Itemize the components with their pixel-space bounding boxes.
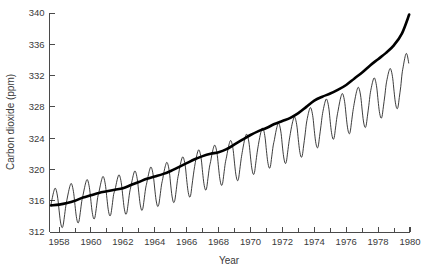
trend-co2-line — [51, 15, 409, 206]
y-axis-title: Carbon dioxide (ppm) — [5, 74, 16, 170]
x-axis-title: Year — [219, 255, 240, 266]
x-tick-label: 1974 — [304, 236, 325, 247]
x-tick-label: 1968 — [208, 236, 229, 247]
x-tick-label: 1964 — [144, 236, 165, 247]
x-tick-label: 1962 — [112, 236, 133, 247]
x-tick-label: 1972 — [272, 236, 293, 247]
y-tick-label: 336 — [29, 39, 45, 50]
chart-canvas: 312316320324328332336340 195819601962196… — [0, 0, 426, 270]
x-tick-label: 1976 — [336, 236, 357, 247]
x-tick-label: 1966 — [176, 236, 197, 247]
y-tick-label: 332 — [29, 70, 45, 81]
x-tick-label: 1970 — [240, 236, 261, 247]
co2-chart-figure: 312316320324328332336340 195819601962196… — [0, 0, 426, 270]
x-axis-tick-labels: 1958196019621964196619681970197219741976… — [49, 236, 421, 247]
x-tick-label: 1958 — [49, 236, 70, 247]
y-tick-label: 320 — [29, 164, 45, 175]
x-tick-label: 1960 — [80, 236, 101, 247]
x-tick-label: 1980 — [399, 236, 420, 247]
y-tick-label: 340 — [29, 7, 45, 18]
x-axis-ticks — [59, 227, 410, 233]
y-tick-label: 324 — [29, 133, 45, 144]
y-axis-tick-labels: 312316320324328332336340 — [29, 7, 45, 237]
x-tick-label: 1978 — [368, 236, 389, 247]
y-tick-label: 328 — [29, 101, 45, 112]
y-tick-label: 316 — [29, 195, 45, 206]
y-tick-label: 312 — [29, 226, 45, 237]
